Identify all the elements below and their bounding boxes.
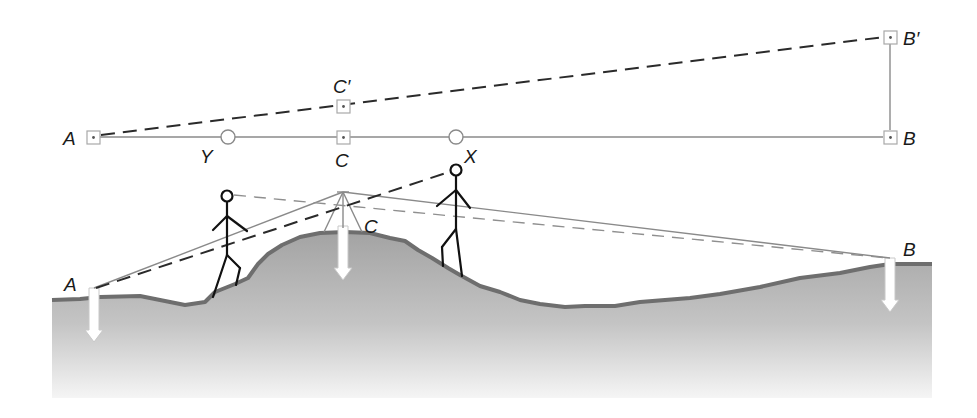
surveying-diagram: A Y C C′ X B B′ <box>0 0 977 418</box>
section-label-b: B <box>903 239 916 260</box>
label-c-prime: C′ <box>333 76 352 97</box>
section-view: A C B <box>52 165 932 399</box>
person-x-figure <box>437 165 470 277</box>
marker-a <box>87 131 100 144</box>
label-a: A <box>62 128 76 149</box>
section-label-a: A <box>63 274 77 295</box>
label-b: B <box>903 128 916 149</box>
ranging-pole-x <box>449 130 463 144</box>
dashed-line-a-bprime <box>101 37 884 135</box>
ground-section <box>52 232 932 398</box>
sight-line-c-b <box>343 192 890 258</box>
label-b-prime: B′ <box>903 28 921 49</box>
label-c: C <box>335 150 349 171</box>
label-x: X <box>463 146 478 167</box>
ranging-pole-y <box>221 130 235 144</box>
marker-b <box>884 131 897 144</box>
section-label-c: C <box>364 216 378 237</box>
marker-b-prime <box>884 31 897 44</box>
marker-c-prime <box>337 100 350 113</box>
plan-view: A Y C C′ X B B′ <box>62 28 921 171</box>
label-y: Y <box>200 146 214 167</box>
marker-c <box>337 131 350 144</box>
